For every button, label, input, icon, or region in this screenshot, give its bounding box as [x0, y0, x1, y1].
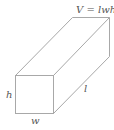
top-right-edge — [54, 18, 110, 76]
width-label: w — [31, 115, 40, 126]
bottom-right-edge — [54, 57, 110, 114]
height-label: h — [6, 89, 12, 100]
formula-label: V = lwh — [76, 4, 114, 15]
front-face — [16, 76, 54, 114]
length-label: l — [84, 83, 87, 94]
prism-diagram: V = lwh h w l — [0, 0, 114, 130]
top-left-edge — [16, 18, 73, 76]
